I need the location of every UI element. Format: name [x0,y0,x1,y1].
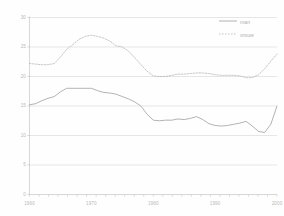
line-chart: 051015202530 19601970198019902000 man vr… [0,0,284,216]
y-axis-tick-label: 10 [8,133,26,138]
legend-item-man-label: man [240,19,250,25]
x-axis-tick-label: 1980 [141,201,165,206]
legend-swatches [219,21,237,34]
y-axis-tick-label: 5 [8,162,26,167]
y-axis-tick-label: 25 [8,44,26,49]
legend-item-vrouw-label: vrouw [240,32,254,38]
gridlines [30,18,278,166]
y-axis-tick-label: 0 [8,192,26,197]
y-axis-tick-label: 15 [8,103,26,108]
x-axis-tick-label: 2000 [265,201,284,206]
y-axis-tick-label: 30 [8,15,26,20]
x-axis-tick-label: 1990 [203,201,227,206]
x-axis-ticks [30,195,278,197]
series-vrouw-line [30,35,278,77]
x-axis-tick-label: 1970 [79,201,103,206]
x-axis-tick-label: 1960 [18,201,42,206]
y-axis-tick-label: 20 [8,74,26,79]
series-man-line [30,88,278,132]
